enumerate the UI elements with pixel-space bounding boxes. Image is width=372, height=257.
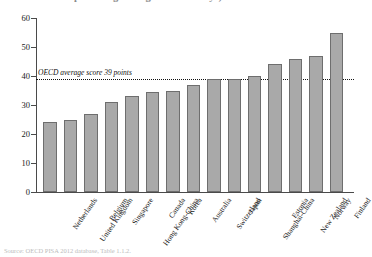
y-axis-tick-label: 50 [8,43,30,52]
page-title: percentage of digital native boys) [74,0,222,2]
y-axis-tick-label: 60 [8,14,30,23]
bar-singapore [105,102,118,192]
bar-new-zealand [289,59,302,192]
bar-shanghai-china [248,76,261,192]
figure-title-strip: percentage of digital native boys) [0,0,359,9]
bar-australia [187,85,200,192]
bar-canada [146,92,159,192]
oecd-average-reference-line [36,79,354,80]
y-axis-tick [31,76,36,77]
y-axis-tick [31,18,36,19]
bar-korea [166,91,179,193]
bar-united-kingdom [64,120,77,193]
y-axis-tick [31,47,36,48]
y-axis-tick-label: 30 [8,101,30,110]
source-note: Source: OECD PISA 2012 database, Table 1… [4,247,131,254]
y-axis-tick [31,134,36,135]
x-axis-line [36,192,354,193]
y-axis-line [36,18,37,192]
y-axis-tick-label: 40 [8,72,30,81]
y-axis-tick-label: 10 [8,159,30,168]
y-axis-tick [31,105,36,106]
bar-norway [309,56,322,192]
bar-finland [330,33,343,193]
bar-netherlands [43,122,56,192]
y-axis-tick [31,163,36,164]
bar-japan [228,79,241,192]
bar-hong-kong-china [125,96,138,192]
source-note-strip: Source: OECD PISA 2012 database, Table 1… [0,247,359,257]
x-axis-label-australia: Australia [210,196,233,224]
x-axis-label-finland: Finland [351,196,372,220]
y-axis-tick-label: 20 [8,130,30,139]
x-axis-label-netherlands: Netherlands [71,196,99,231]
bar-switzerland [207,79,220,192]
y-axis-tick [31,192,36,193]
y-axis-tick-label: 0 [8,188,30,197]
chart-plot-area: OECD average score 39 points Netherlands… [36,18,354,192]
bar-belgium [84,114,97,192]
x-axis-label-japan: Japan [247,196,264,215]
x-axis-label-korea: Korea [186,196,204,216]
oecd-average-label: OECD average score 39 points [38,68,132,77]
bar-estonia [268,64,281,192]
